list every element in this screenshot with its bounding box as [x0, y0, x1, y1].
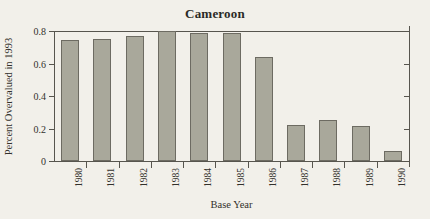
y-axis-tick-label: 0.6 [34, 58, 47, 69]
x-axis-label-1982: 1982 [139, 168, 149, 187]
bar-1984 [190, 33, 208, 161]
y-axis-tick [49, 96, 55, 97]
y-axis-tick-label: 0.2 [34, 123, 47, 134]
right-axis-tick [404, 64, 410, 65]
y-axis-tick [49, 31, 55, 32]
y-axis-title-text: Percent Overvalued in 1993 [4, 37, 15, 155]
x-axis-label-1983: 1983 [171, 168, 181, 187]
x-axis-tick [377, 162, 378, 168]
bar-1986 [255, 57, 273, 161]
x-axis-tick [119, 162, 120, 168]
x-axis-tick [344, 162, 345, 168]
x-axis-title: Base Year [54, 199, 409, 210]
y-axis-tick-label: 0.8 [34, 26, 47, 37]
x-axis-label-1984: 1984 [203, 168, 213, 187]
y-axis-tick-label: 0.4 [34, 91, 47, 102]
x-axis-label-1981: 1981 [106, 168, 116, 187]
x-axis-label-1986: 1986 [268, 168, 278, 187]
plot-area: 00.20.40.60.8198019811982198319841985198… [54, 31, 409, 161]
chart-container: Cameroon Percent Overvalued in 1993 00.2… [0, 0, 430, 219]
axis-bottom [54, 161, 410, 162]
x-axis-label-1990: 1990 [397, 168, 407, 187]
bar-1980 [61, 40, 79, 161]
x-axis-tick [248, 162, 249, 168]
bar-1988 [319, 120, 337, 161]
x-axis-tick [280, 162, 281, 168]
axis-top [54, 31, 409, 32]
bar-1989 [352, 126, 370, 161]
x-axis-label-1987: 1987 [300, 168, 310, 187]
x-axis-tick [215, 162, 216, 168]
bar-1983 [158, 31, 176, 161]
y-axis-tick [49, 129, 55, 130]
bar-1982 [126, 36, 144, 161]
chart-title: Cameroon [0, 6, 430, 22]
x-axis-label-1988: 1988 [332, 168, 342, 187]
y-axis-tick [49, 161, 55, 162]
bar-1981 [93, 39, 111, 161]
y-axis-tick-label: 0 [41, 156, 46, 167]
bar-1990 [384, 151, 402, 161]
x-axis-tick [86, 162, 87, 168]
x-axis-label-1989: 1989 [365, 168, 375, 187]
bar-1985 [223, 33, 241, 161]
x-axis-tick [312, 162, 313, 168]
x-axis-label-1980: 1980 [74, 168, 84, 187]
x-axis-tick [183, 162, 184, 168]
bar-1987 [287, 125, 305, 161]
x-axis-tick [151, 162, 152, 168]
x-axis-label-1985: 1985 [236, 168, 246, 187]
right-axis-tick [404, 96, 410, 97]
right-axis-tick [404, 129, 410, 130]
y-axis-tick [49, 64, 55, 65]
y-axis-title: Percent Overvalued in 1993 [2, 31, 16, 161]
